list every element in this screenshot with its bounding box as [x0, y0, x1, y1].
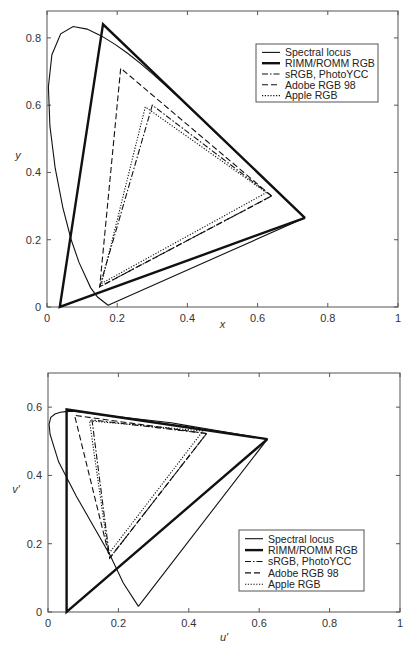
y-tick-label: 0.4	[26, 166, 41, 178]
y-tick-label: 0.2	[27, 538, 42, 550]
x-tick-label: 0.6	[252, 617, 267, 629]
x-tick-label: 1	[397, 617, 403, 629]
x-axis-label: u′	[220, 631, 229, 643]
x-tick-label: 0.2	[110, 312, 125, 324]
x-tick-label: 0.2	[111, 617, 126, 629]
x-tick-label: 0.4	[181, 617, 196, 629]
y-tick-label: 0.4	[27, 469, 42, 481]
series-srgb-photoycc	[100, 105, 272, 287]
y-tick-label: 0.8	[26, 32, 41, 44]
series-spectral-locus	[49, 411, 267, 606]
series-srgb-photoycc	[92, 420, 207, 558]
legend-label: RIMM/ROMM RGB	[268, 544, 358, 556]
series-rimm-romm-rgb	[67, 410, 268, 612]
legend-label: Spectral locus	[268, 533, 334, 545]
x-tick-label: 0.8	[320, 312, 335, 324]
y-tick-label: 0.2	[26, 234, 41, 246]
x-tick-label: 0	[45, 617, 51, 629]
y-tick-label: 0	[36, 606, 42, 618]
legend: Spectral locusRIMM/ROMM RGBsRGB, PhotoYC…	[239, 530, 364, 591]
y-axis-label: y	[14, 149, 22, 161]
x-tick-label: 0.8	[322, 617, 337, 629]
legend: Spectral locusRIMM/ROMM RGBsRGB, PhotoYC…	[256, 44, 378, 102]
x-axis-label: x	[219, 318, 226, 330]
legend-label: sRGB, PhotoYCC	[268, 555, 352, 567]
y-axis-label: v′	[12, 483, 21, 495]
y-tick-label: 0.6	[27, 401, 42, 413]
x-tick-label: 0.4	[180, 312, 195, 324]
legend-label: Apple RGB	[268, 578, 321, 590]
y-tick-label: 0	[35, 301, 41, 313]
y-tick-label: 0.6	[26, 99, 41, 111]
uv-chromaticity-chart: 00.20.40.60.8100.20.40.6u′v′Spectral loc…	[12, 373, 403, 643]
legend-label: Apple RGB	[285, 89, 338, 101]
xy-chromaticity-chart: 00.20.40.60.8100.20.40.60.8xySpectral lo…	[14, 11, 401, 330]
legend-label: Adobe RGB 98	[268, 567, 339, 579]
chromaticity-charts: 00.20.40.60.8100.20.40.60.8xySpectral lo…	[0, 0, 418, 658]
x-tick-label: 1	[395, 312, 401, 324]
x-tick-label: 0	[44, 312, 50, 324]
x-tick-label: 0.6	[250, 312, 265, 324]
